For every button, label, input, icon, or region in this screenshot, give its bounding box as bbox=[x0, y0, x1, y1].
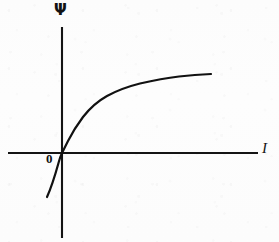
x-axis-label: I bbox=[262, 141, 267, 156]
psi-vs-current-curve bbox=[47, 74, 211, 197]
plot-graphic bbox=[0, 0, 279, 242]
figure-canvas: Ψ I 0 bbox=[0, 0, 279, 242]
origin-label: 0 bbox=[46, 152, 53, 165]
y-axis-label: Ψ bbox=[54, 3, 67, 18]
